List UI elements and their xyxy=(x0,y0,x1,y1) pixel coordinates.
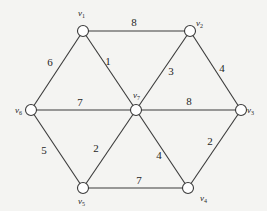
node-v2 xyxy=(185,26,196,37)
edge-weight-v2-v7: 3 xyxy=(168,65,174,77)
edge-weight-v1-v6: 6 xyxy=(47,56,53,68)
edge-v5-v7 xyxy=(83,110,136,188)
edge-weight-v1-v7: 1 xyxy=(105,55,111,67)
node-v1 xyxy=(78,26,89,37)
edge-weight-v6-v5: 5 xyxy=(41,144,47,156)
node-label-v1: v1 xyxy=(78,8,85,19)
edge-weight-v6-v7: 7 xyxy=(77,96,83,108)
node-label-subscript: 7 xyxy=(137,95,140,101)
edge-labels-layer: 861347852427 xyxy=(41,16,225,186)
node-label-subscript: 1 xyxy=(82,13,85,19)
node-label-v6: v6 xyxy=(15,105,22,116)
node-v5 xyxy=(78,183,89,194)
node-v3 xyxy=(236,105,247,116)
graph-diagram: 861347852427 v1v2v3v4v5v6v7 xyxy=(0,0,267,211)
edge-weight-v3-v4: 2 xyxy=(207,135,213,147)
edge-weight-v5-v4: 7 xyxy=(136,174,142,186)
edge-v2-v3 xyxy=(190,31,241,110)
node-label-v7: v7 xyxy=(133,90,140,101)
edge-weight-v2-v3: 4 xyxy=(219,62,225,74)
edge-weight-v5-v7: 2 xyxy=(93,142,99,154)
edge-v7-v4 xyxy=(136,110,188,188)
edge-weight-v7-v4: 4 xyxy=(156,149,162,161)
edge-weight-v7-v3: 8 xyxy=(186,95,192,107)
node-label-subscript: 5 xyxy=(82,201,85,207)
node-label-subscript: 6 xyxy=(19,110,22,116)
node-v6 xyxy=(26,105,37,116)
node-label-v5: v5 xyxy=(78,196,85,207)
node-label-subscript: 4 xyxy=(204,198,207,204)
node-label-subscript: 2 xyxy=(200,23,203,29)
node-label-v4: v4 xyxy=(200,193,207,204)
node-label-v3: v3 xyxy=(247,105,254,116)
node-label-subscript: 3 xyxy=(251,110,254,116)
edge-v2-v7 xyxy=(136,31,190,110)
node-label-v2: v2 xyxy=(196,18,203,29)
edge-v6-v5 xyxy=(31,110,83,188)
edge-v3-v4 xyxy=(188,110,241,188)
edge-v1-v7 xyxy=(83,31,136,110)
edge-v1-v6 xyxy=(31,31,83,110)
edge-weight-v1-v2: 8 xyxy=(131,16,137,28)
node-v7 xyxy=(131,105,142,116)
node-v4 xyxy=(183,183,194,194)
